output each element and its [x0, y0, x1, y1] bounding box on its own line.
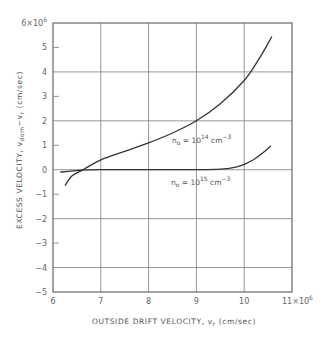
- y-tick-label: 6×106: [21, 16, 47, 28]
- data-curves: [60, 37, 272, 186]
- curve-label-n0-1e15: no = 1015 cm−3: [171, 175, 231, 188]
- curve-n0-1e15: [60, 146, 271, 172]
- x-tick-label: 10: [239, 297, 249, 306]
- y-tick-labels: 6×106543210−1−2−3−4−5: [21, 16, 47, 297]
- y-tick-label: 2: [42, 117, 47, 126]
- y-tick-label: 3: [42, 92, 47, 101]
- y-tick-label: 1: [42, 141, 47, 150]
- y-axis-title: EXCESS VELOCITY, vdom−vr (cm/sec): [15, 71, 25, 229]
- x-axis-title: OUTSIDE DRIFT VELOCITY, vr (cm/sec): [92, 317, 256, 327]
- x-tick-labels: 67891011×106: [50, 294, 313, 306]
- y-tick-label: 4: [42, 68, 47, 77]
- y-tick-label: −1: [35, 190, 47, 199]
- excess-velocity-chart: 6×106543210−1−2−3−4−5 67891011×106 no = …: [0, 0, 322, 340]
- curve-label-n0-1e14: no = 1014 cm−3: [172, 133, 232, 146]
- y-tick-label: 5: [42, 43, 47, 52]
- x-tick-label: 11×106: [282, 294, 313, 306]
- x-tick-label: 8: [146, 297, 151, 306]
- x-tick-label: 6: [50, 297, 55, 306]
- y-tick-label: −5: [35, 288, 47, 297]
- y-tick-label: −4: [35, 264, 47, 273]
- x-tick-label: 9: [194, 297, 199, 306]
- axis-ticks: [53, 47, 59, 243]
- y-tick-label: −3: [35, 239, 47, 248]
- y-tick-label: −2: [35, 215, 47, 224]
- curve-n0-1e14: [65, 37, 272, 186]
- y-tick-label: 0: [42, 166, 47, 175]
- x-tick-label: 7: [98, 297, 103, 306]
